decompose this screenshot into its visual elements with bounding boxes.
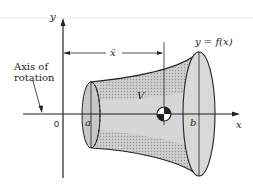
xbar-label: x̄ <box>110 47 116 58</box>
axis-of-rotation-label-2: rotation <box>14 72 55 83</box>
axis-pointer <box>33 81 41 110</box>
a-label: a <box>85 117 91 128</box>
axis-of-rotation-label-1: Axis of <box>13 61 49 72</box>
centroid-icon <box>157 107 171 121</box>
b-label: b <box>190 117 196 128</box>
origin-label: 0 <box>54 119 59 129</box>
x-axis-label: x <box>236 119 242 130</box>
solid-of-revolution-diagram: y x 0 a b x̄ V y = f(x) Axis of rotation <box>0 0 253 194</box>
disk-a <box>82 82 100 148</box>
axis-pointer-arrowhead <box>39 106 44 114</box>
y-axis-label: y <box>49 11 56 22</box>
curve-label: y = f(x) <box>194 36 233 47</box>
y-axis <box>61 18 66 178</box>
